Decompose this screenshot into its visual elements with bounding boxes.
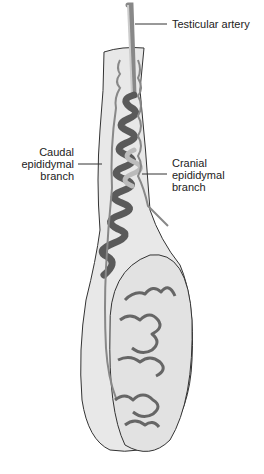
testis-illustration — [0, 0, 264, 474]
label-cranial-branch: Cranial epididymal branch — [172, 157, 225, 193]
label-testicular-artery: Testicular artery — [172, 18, 250, 30]
label-caudal-branch: Caudal epididymal branch — [8, 146, 74, 182]
